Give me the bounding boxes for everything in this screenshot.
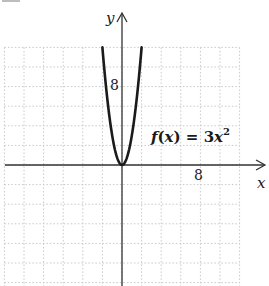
y-axis [117, 13, 127, 286]
y-axis-label: y [106, 9, 114, 27]
x-tick-label-8: 8 [194, 167, 203, 183]
function-label: f(x) = 3x2 [151, 126, 230, 146]
x-axis-label: x [257, 174, 265, 192]
y-tick-label-8: 8 [110, 77, 119, 93]
x-axis [5, 160, 265, 170]
